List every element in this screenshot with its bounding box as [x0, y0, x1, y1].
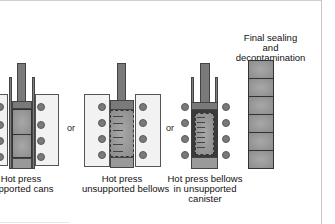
sealed-can — [248, 96, 274, 115]
heater-dot — [222, 103, 230, 111]
bellows-container — [110, 110, 134, 157]
support-sleeve-right — [32, 77, 35, 169]
furnace-wall-left — [84, 94, 110, 167]
or-connector: or — [67, 123, 75, 133]
panel-label: Hot press unsupported bellows — [82, 174, 162, 194]
can-cell — [12, 109, 32, 135]
bellows-container — [195, 113, 214, 155]
bellows-fold — [197, 147, 205, 148]
heater-dot — [37, 121, 45, 129]
heater-dot — [37, 103, 45, 111]
press-ram-head — [191, 102, 218, 110]
bellows-fold — [113, 116, 123, 117]
press-ram — [117, 63, 126, 103]
base-plug — [110, 157, 134, 168]
bellows-fold — [197, 132, 205, 133]
sealed-can — [248, 114, 274, 133]
heater-dot — [181, 135, 189, 143]
heater-dot — [98, 151, 106, 159]
press-ram-head — [12, 101, 32, 109]
heater-dot — [139, 135, 147, 143]
canister-wall-left — [191, 77, 194, 105]
sealed-can — [248, 78, 274, 97]
press-ram — [17, 63, 26, 103]
panel-label: Hot press bellows in unsupported caniste… — [164, 174, 246, 204]
sealed-can — [248, 60, 274, 79]
heater-dot — [181, 119, 189, 127]
canister-wall-right — [215, 77, 218, 105]
bellows-fold — [113, 144, 123, 145]
bellows-fold — [197, 117, 205, 118]
can-cell — [12, 134, 32, 158]
press-ram — [200, 63, 210, 103]
base-plug — [191, 157, 218, 169]
heater-dot — [222, 135, 230, 143]
heater-dot — [181, 151, 189, 159]
or-connector: or — [166, 123, 174, 133]
bellows-fold — [113, 151, 123, 152]
heater-dot — [37, 137, 45, 145]
panel-label: Hot press supported cans — [0, 174, 56, 194]
sealed-can — [248, 150, 274, 169]
bellows-fold — [113, 130, 123, 131]
bellows-fold — [197, 127, 205, 128]
panel-label: Final sealing and decontamination — [233, 33, 308, 63]
heater-dot — [222, 119, 230, 127]
heater-dot — [98, 103, 106, 111]
heater-dot — [181, 103, 189, 111]
base-plug — [12, 158, 32, 169]
heater-dot — [98, 119, 106, 127]
heater-dot — [222, 151, 230, 159]
heater-dot — [139, 119, 147, 127]
frame-bottom-smudge — [0, 222, 70, 223]
bellows-fold — [197, 137, 205, 138]
frame-top-border — [0, 0, 322, 1]
heater-dot — [98, 135, 106, 143]
heater-dot — [139, 151, 147, 159]
bellows-fold — [113, 123, 123, 124]
press-ram-head — [110, 100, 134, 110]
heater-dot — [139, 103, 147, 111]
bellows-fold — [197, 142, 205, 143]
frame-right-border — [321, 0, 322, 224]
bellows-fold — [113, 137, 123, 138]
sealed-can — [248, 132, 274, 151]
bellows-fold — [197, 122, 205, 123]
heater-dot — [37, 153, 45, 161]
